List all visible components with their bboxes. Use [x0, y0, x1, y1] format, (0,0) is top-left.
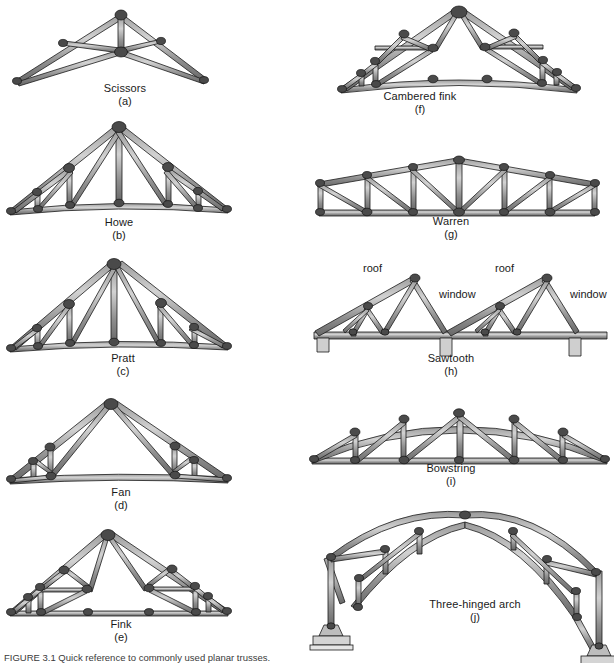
caption-sawtooth: Sawtooth (h) — [398, 352, 504, 378]
truss-diagram-howe — [0, 118, 307, 216]
caption-fan: Fan (d) — [68, 486, 174, 512]
annotation-roof-left: roof — [363, 262, 382, 274]
caption-howe: Howe (b) — [66, 216, 172, 242]
truss-diagram-three-hinged-arch — [307, 508, 614, 662]
caption-scissors: Scissors (a) — [72, 82, 178, 108]
caption-three-hinged-arch: Three-hinged arch (j) — [400, 598, 550, 624]
truss-letter-scissors: (a) — [72, 95, 178, 108]
truss-name-pratt: Pratt — [70, 352, 176, 365]
figure-caption: FIGURE 3.1 Quick reference to commonly u… — [4, 652, 610, 663]
truss-diagram-bowstring — [307, 404, 614, 468]
annotation-window-right: window — [570, 288, 607, 300]
caption-bowstring: Bowstring (i) — [398, 462, 504, 488]
truss-letter-sawtooth: (h) — [398, 365, 504, 378]
truss-name-sawtooth: Sawtooth — [398, 352, 504, 365]
truss-diagram-cambered-fink — [307, 4, 614, 96]
truss-name-three-hinged-arch: Three-hinged arch — [400, 598, 550, 611]
truss-name-bowstring: Bowstring — [398, 462, 504, 475]
truss-name-fink: Fink — [68, 618, 174, 631]
truss-name-cambered-fink: Cambered fink — [360, 90, 480, 103]
truss-letter-three-hinged-arch: (j) — [400, 611, 550, 624]
truss-letter-pratt: (c) — [70, 365, 176, 378]
truss-name-warren: Warren — [398, 215, 504, 228]
annotation-roof-right: roof — [495, 262, 514, 274]
truss-letter-cambered-fink: (f) — [360, 103, 480, 116]
truss-diagram-fink — [0, 527, 307, 619]
caption-warren: Warren (g) — [398, 215, 504, 241]
truss-diagram-fan — [0, 395, 307, 487]
caption-pratt: Pratt (c) — [70, 352, 176, 378]
truss-letter-bowstring: (i) — [398, 475, 504, 488]
truss-letter-fink: (e) — [68, 631, 174, 644]
truss-name-howe: Howe — [66, 216, 172, 229]
truss-name-scissors: Scissors — [72, 82, 178, 95]
truss-name-fan: Fan — [68, 486, 174, 499]
truss-letter-howe: (b) — [66, 229, 172, 242]
truss-diagram-scissors — [0, 4, 307, 84]
truss-letter-warren: (g) — [398, 228, 504, 241]
truss-letter-fan: (d) — [68, 499, 174, 512]
truss-diagram-pratt — [0, 255, 307, 353]
caption-fink: Fink (e) — [68, 618, 174, 644]
caption-cambered-fink: Cambered fink (f) — [360, 90, 480, 116]
truss-diagram-warren — [307, 142, 614, 222]
annotation-window-left: window — [439, 288, 476, 300]
truss-diagram-sawtooth — [307, 268, 614, 350]
